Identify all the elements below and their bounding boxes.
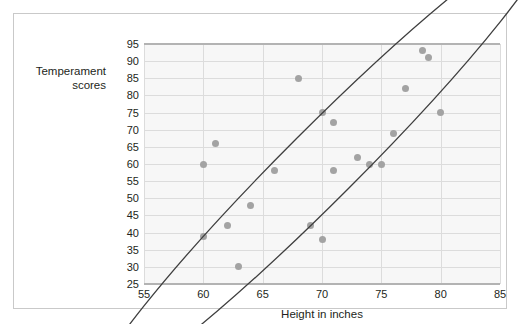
y-axis-tick-label: 40 [127, 227, 139, 239]
y-axis-title: Temperament scores [28, 64, 106, 92]
data-point [247, 202, 254, 209]
axis-line-bottom [144, 283, 500, 285]
y-axis-title-line-2: scores [28, 78, 106, 92]
data-point [354, 154, 361, 161]
y-axis-tick-label: 65 [127, 141, 139, 153]
data-point [271, 167, 278, 174]
data-point [330, 167, 337, 174]
data-point [437, 109, 444, 116]
gridline-vertical [322, 44, 323, 284]
y-axis-tick-label: 45 [127, 209, 139, 221]
data-point [330, 119, 337, 126]
data-point [378, 161, 385, 168]
x-axis-title: Height in inches [144, 308, 500, 320]
y-axis-title-line-1: Temperament [28, 64, 106, 78]
data-point [419, 47, 426, 54]
y-axis-tick-label: 60 [127, 158, 139, 170]
y-axis-tick-label: 35 [127, 244, 139, 256]
y-axis-tick-label: 55 [127, 175, 139, 187]
data-point [402, 85, 409, 92]
y-axis-tick-label: 80 [127, 89, 139, 101]
data-point [425, 54, 432, 61]
data-point [235, 263, 242, 270]
x-axis-tick-label: 85 [494, 288, 506, 300]
x-axis-tick-labels: 55606570758085 [144, 288, 500, 304]
data-point [224, 222, 231, 229]
gridline-vertical [144, 44, 145, 284]
data-point [212, 140, 219, 147]
x-axis-tick-label: 55 [138, 288, 150, 300]
gridline-vertical [441, 44, 442, 284]
data-point [390, 130, 397, 137]
y-axis-tick-label: 85 [127, 72, 139, 84]
y-axis-tick-label: 75 [127, 107, 139, 119]
data-point [200, 233, 207, 240]
data-point [366, 161, 373, 168]
data-point [307, 222, 314, 229]
figure-frame: Temperament scores 253035404550556065707… [13, 13, 507, 309]
data-point [295, 75, 302, 82]
plot-area [144, 44, 500, 284]
y-axis-tick-label: 30 [127, 261, 139, 273]
y-axis-tick-labels: 253035404550556065707580859095 [109, 44, 139, 284]
gridline-vertical [500, 44, 501, 284]
data-point [200, 161, 207, 168]
x-axis-tick-label: 70 [316, 288, 328, 300]
x-axis-tick-label: 60 [197, 288, 209, 300]
data-point [319, 236, 326, 243]
y-axis-tick-label: 70 [127, 124, 139, 136]
axis-line-top [144, 43, 500, 45]
x-axis-tick-label: 65 [257, 288, 269, 300]
y-axis-tick-label: 95 [127, 38, 139, 50]
y-axis-tick-label: 50 [127, 192, 139, 204]
y-axis-tick-label: 90 [127, 55, 139, 67]
data-point [319, 109, 326, 116]
gridline-vertical [263, 44, 264, 284]
x-axis-tick-label: 80 [435, 288, 447, 300]
x-axis-tick-label: 75 [375, 288, 387, 300]
